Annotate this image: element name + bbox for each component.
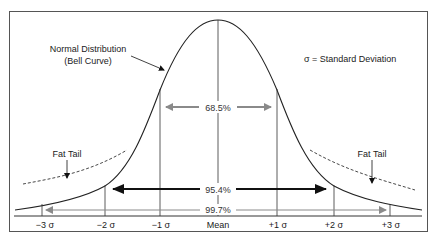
tick-label-minus3: −3 σ bbox=[36, 220, 55, 230]
tick-label-plus2: +2 σ bbox=[325, 220, 344, 230]
fat-tail-right-label: Fat Tail bbox=[358, 149, 387, 159]
tick-label-plus1: +1 σ bbox=[269, 220, 288, 230]
tick-label-minus1: −1 σ bbox=[152, 220, 171, 230]
sigma-legend: σ = Standard Deviation bbox=[304, 54, 396, 64]
tick-label-plus3: +3 σ bbox=[382, 220, 401, 230]
tick-label-mean: Mean bbox=[207, 220, 230, 230]
interval-68-label: 68.5% bbox=[205, 103, 231, 113]
fat-tail-left-label: Fat Tail bbox=[53, 149, 82, 159]
interval-99-label: 99.7% bbox=[205, 205, 231, 215]
curve-label-line2: (Bell Curve) bbox=[64, 56, 112, 66]
curve-label-pointer bbox=[131, 56, 164, 70]
tick-label-minus2: −2 σ bbox=[97, 220, 116, 230]
interval-95-label: 95.4% bbox=[205, 185, 231, 195]
curve-label-line1: Normal Distribution bbox=[50, 44, 127, 54]
bell-curve-diagram: 68.5% 95.4% 99.7% −3 σ −2 σ −1 σ Mean +1… bbox=[0, 0, 437, 244]
